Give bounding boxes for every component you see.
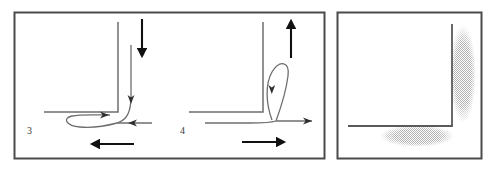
diagram-3-label: 3	[27, 125, 32, 136]
figure-root: 3 4	[0, 0, 495, 174]
corner-flow-figure: 3 4	[0, 0, 495, 174]
diagram-4-label: 4	[180, 125, 185, 136]
panel-left-frame	[15, 13, 325, 159]
panel-left: 3 4	[15, 13, 325, 159]
panel-right	[338, 13, 482, 159]
